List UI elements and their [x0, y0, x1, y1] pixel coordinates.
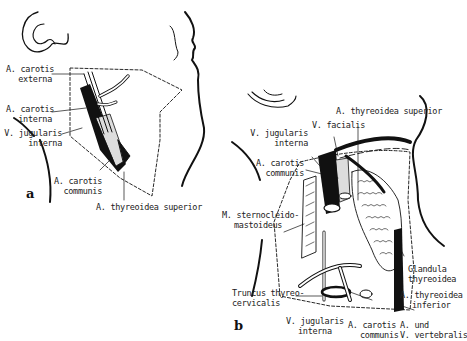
label-b-vertebralis: A. und V. vertebralis	[400, 320, 467, 340]
label-b-sternocleidomastoideus: M. sternocleido- mastoideus	[222, 210, 299, 230]
face-profile	[182, 12, 204, 186]
label-a-jugularis-interna: V. jugularis interna	[0, 128, 62, 148]
panel-letter-a: a	[26, 186, 34, 201]
label-b-truncus-thyreocervicalis: Truncus thyreo- cervicalis	[232, 288, 304, 308]
label-line: thyreoidea	[408, 274, 456, 284]
panel-letter-b: b	[234, 318, 243, 333]
label-a-thyreoidea-superior: A. thyreoidea superior	[96, 202, 202, 212]
ear-outline	[23, 12, 69, 52]
label-line: V. jugularis	[250, 128, 308, 138]
label-b-jugularis-interna-top: V. jugularis interna	[250, 128, 308, 148]
label-line: Glandula	[408, 264, 447, 274]
label-line: V. jugularis	[286, 316, 344, 326]
label-line: A. thyreoidea	[400, 290, 463, 300]
label-a-carotis-communis: A. carotis communis	[54, 176, 102, 196]
label-line: M. sternocleido-	[222, 210, 299, 220]
label-line: communis	[348, 330, 399, 340]
label-line: cervicalis	[232, 298, 280, 308]
neck-profile-b	[413, 96, 444, 246]
label-line: V. jugularis	[4, 128, 62, 138]
label-line: A. carotis	[6, 64, 54, 74]
label-line: mastoideus	[222, 220, 282, 230]
label-line: V. vertebralis	[400, 330, 467, 340]
label-b-carotis-communis-top: A. carotis communis	[256, 158, 304, 178]
label-line: externa	[18, 74, 52, 84]
label-line: A. carotis	[256, 158, 304, 168]
label-b-carotis-communis-bottom: A. carotis communis	[348, 320, 399, 340]
label-line: A. carotis	[348, 320, 396, 330]
label-b-facialis: V. facialis	[312, 120, 365, 130]
label-line: interna	[18, 114, 52, 124]
label-b-thyreoidea-inferior: A. thyreoidea inferior	[400, 290, 463, 310]
label-a-carotis-interna: A. carotis interna	[6, 104, 52, 124]
label-line: communis	[265, 168, 304, 178]
label-b-glandula-thyreoidea: Glandula thyreoidea	[408, 264, 456, 284]
label-line: Truncus thyreo-	[232, 288, 304, 298]
label-line: inferior	[400, 300, 451, 310]
label-line: communis	[63, 186, 102, 196]
ear-outline-b	[248, 94, 296, 107]
sternocleidomastoid	[302, 176, 316, 258]
label-b-thyreoidea-superior: A. thyreoidea superior	[336, 106, 442, 116]
label-b-jugularis-interna-bottom: V. jugularis interna	[286, 316, 344, 336]
label-line: A. und	[400, 320, 429, 330]
label-line: interna	[274, 138, 308, 148]
label-line: interna	[28, 138, 62, 148]
label-a-carotis-externa: A. carotis externa	[6, 64, 52, 84]
label-line: A. carotis	[54, 176, 102, 186]
label-line: interna	[286, 326, 332, 336]
label-line: A. carotis	[6, 104, 54, 114]
